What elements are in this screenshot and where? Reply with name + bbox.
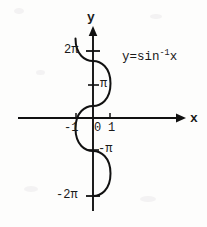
y-tick-label-minus-pi: -π: [98, 143, 112, 155]
x-tick-label-minus-one: -1: [64, 122, 78, 134]
plot-canvas: [0, 0, 207, 227]
equation-base: y=sin: [122, 50, 160, 64]
equation-label: y=sin-1x: [122, 51, 177, 64]
equation-argument: x: [170, 50, 178, 64]
y-tick-label-minus-two-pi: -2π: [56, 189, 78, 201]
y-axis-arrowhead: [89, 26, 98, 36]
graph-figure: y x 2π π -π -2π -1 0 1 y=sin-1x: [0, 0, 207, 227]
y-axis-label: y: [87, 11, 95, 24]
x-axis-arrowhead: [176, 114, 186, 123]
y-tick-label-pi: π: [100, 78, 107, 90]
y-tick-label-two-pi: 2π: [64, 44, 78, 56]
x-axis-label: x: [190, 112, 198, 125]
equation-exponent: -1: [160, 48, 170, 58]
x-tick-label-zero: 0: [94, 122, 101, 134]
x-tick-label-one: 1: [108, 122, 115, 134]
